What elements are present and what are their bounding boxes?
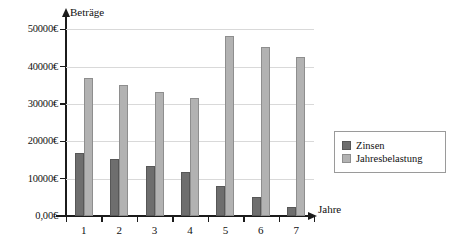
bar-zinsen xyxy=(216,186,225,216)
y-axis-title: Beträge xyxy=(70,6,104,18)
x-axis-tick-label: 5 xyxy=(215,224,235,236)
bar-jahresbelastung xyxy=(261,47,270,216)
x-axis-tick-label: 3 xyxy=(145,224,165,236)
y-axis-tick-label: 10000€ xyxy=(2,174,58,185)
bar-zinsen xyxy=(75,153,84,216)
legend: Zinsen Jahresbelastung xyxy=(334,131,446,173)
y-axis-tick-label: 50000€ xyxy=(2,24,58,35)
x-axis-tick xyxy=(208,217,209,222)
y-axis-tick-labels: 0,00€10000€20000€30000€40000€50000€ xyxy=(0,0,58,252)
bar-jahresbelastung xyxy=(225,36,234,216)
x-axis-tick-label: 4 xyxy=(180,224,200,236)
x-axis-tick xyxy=(314,217,315,222)
x-axis-tick-label: 6 xyxy=(251,224,271,236)
legend-item-jahresbelastung: Jahresbelastung xyxy=(342,153,439,164)
x-axis-tick-label: 7 xyxy=(286,224,306,236)
legend-item-zinsen: Zinsen xyxy=(342,140,439,151)
bar-zinsen xyxy=(287,207,296,216)
legend-label: Jahresbelastung xyxy=(356,153,422,164)
y-axis-tick-label: 0,00€ xyxy=(2,211,58,222)
legend-label: Zinsen xyxy=(356,140,385,151)
x-axis-tick xyxy=(66,217,67,222)
bar-zinsen xyxy=(110,159,119,216)
bar-series-container xyxy=(66,22,314,216)
x-axis-tick xyxy=(137,217,138,222)
legend-swatch-icon xyxy=(342,154,351,163)
bar-jahresbelastung xyxy=(84,78,93,216)
x-axis-tick-label: 2 xyxy=(109,224,129,236)
y-axis-tick-label: 40000€ xyxy=(2,62,58,73)
legend-swatch-icon xyxy=(342,141,351,150)
y-axis-tick-label: 20000€ xyxy=(2,136,58,147)
x-axis-title: Jahre xyxy=(318,203,341,215)
bar-jahresbelastung xyxy=(190,98,199,216)
x-axis-tick xyxy=(172,217,173,222)
bar-jahresbelastung xyxy=(119,85,128,216)
bar-jahresbelastung xyxy=(296,57,305,216)
y-axis-arrow-icon xyxy=(62,8,70,17)
x-axis-tick xyxy=(243,217,244,222)
bar-zinsen xyxy=(252,197,261,216)
bar-zinsen xyxy=(181,172,190,216)
y-axis-tick-label: 30000€ xyxy=(2,99,58,110)
x-axis-tick xyxy=(279,217,280,222)
bar-chart: Beträge Jahre 0,00€10000€20000€30000€400… xyxy=(0,0,456,252)
x-axis-tick xyxy=(101,217,102,222)
x-axis-tick-label: 1 xyxy=(74,224,94,236)
bar-zinsen xyxy=(146,166,155,216)
bar-jahresbelastung xyxy=(155,92,164,216)
